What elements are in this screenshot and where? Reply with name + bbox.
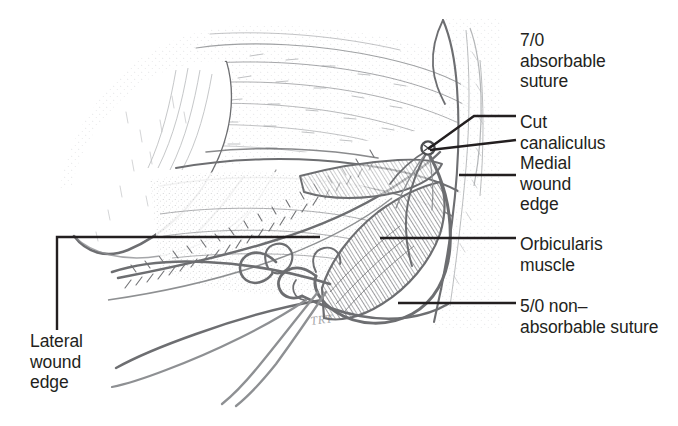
label-nonabsorbable-suture: 5/0 non– absorbable suture — [520, 296, 658, 337]
label-cut-canaliculus: Cut canaliculus — [520, 112, 605, 153]
artist-signature: TRT — [310, 311, 335, 328]
svg-text:TRT: TRT — [310, 311, 335, 328]
label-orbicularis-muscle: Orbicularis muscle — [520, 234, 603, 275]
label-absorbable-suture: 7/0 absorbable suture — [520, 30, 606, 92]
medical-illustration-figure: TRT 7/0 absorbable suture Cut canaliculu… — [0, 0, 678, 426]
label-medial-wound-edge: Medial wound edge — [520, 153, 571, 215]
label-lateral-wound-edge: Lateral wound edge — [30, 331, 83, 393]
